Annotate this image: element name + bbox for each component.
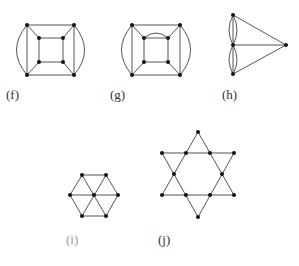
label-g: (g) xyxy=(110,87,125,102)
graph-figure: (f) (g) (h) (i) (j) xyxy=(0,0,299,266)
label-f: (f) xyxy=(6,87,19,102)
graph-g xyxy=(122,23,191,77)
label-j: (j) xyxy=(158,232,170,247)
graph-j xyxy=(160,130,236,219)
graph-i xyxy=(68,173,120,218)
label-i: (i) xyxy=(66,232,78,247)
label-h: (h) xyxy=(222,87,237,102)
graph-h xyxy=(229,13,288,76)
graph-f xyxy=(17,23,85,77)
